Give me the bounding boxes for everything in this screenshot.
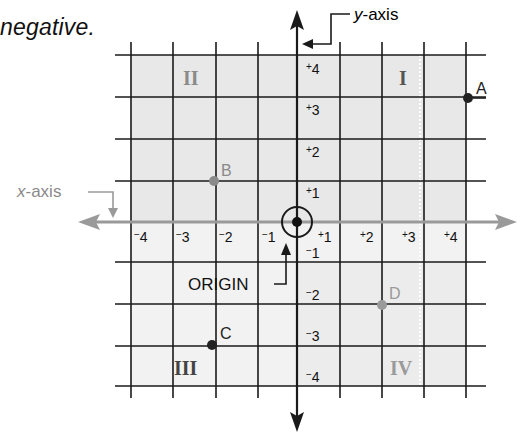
- callout-arrow-icon: [302, 39, 313, 49]
- point-label-b: B: [221, 162, 232, 179]
- y-axis-label: y-axis: [353, 5, 398, 24]
- quadrant-label-ii: II: [183, 67, 199, 89]
- quadrant-label-iv: IV: [390, 357, 413, 379]
- quadrant-label-i: I: [399, 67, 407, 89]
- x-axis-callout: x-axis: [16, 182, 118, 218]
- point-label-a: A: [476, 80, 487, 97]
- point-label-c: C: [220, 325, 232, 342]
- origin-label: ORIGIN: [188, 275, 248, 294]
- callout-arrow-icon: [108, 208, 118, 218]
- coordinate-plane: y-axis x-axis ORIGIN −4 −3 −2 −1 +1 +2 +…: [0, 0, 524, 436]
- y-axis-callout: y-axis: [302, 5, 398, 49]
- quadrant-label-iii: III: [174, 357, 198, 379]
- point-label-d: D: [389, 285, 401, 302]
- x-axis-label: x-axis: [16, 182, 61, 201]
